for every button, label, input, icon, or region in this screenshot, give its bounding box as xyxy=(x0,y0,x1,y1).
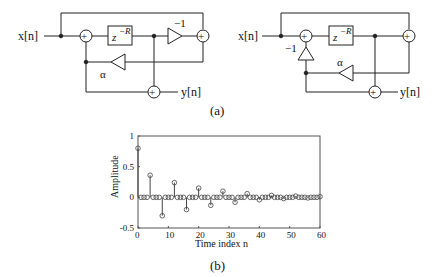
svg-text:+: + xyxy=(404,30,410,42)
svg-text:0: 0 xyxy=(130,192,135,202)
output-label: y[n] xyxy=(181,85,201,99)
svg-text:−R: −R xyxy=(119,26,131,36)
svg-text:-0.5: -0.5 xyxy=(120,223,135,233)
svg-text:+: + xyxy=(198,30,204,42)
svg-text:α: α xyxy=(100,68,106,80)
svg-text:−1: −1 xyxy=(174,17,186,29)
svg-text:x[n]: x[n] xyxy=(238,29,258,43)
svg-text:+: + xyxy=(301,30,307,42)
svg-text:1: 1 xyxy=(130,131,135,141)
svg-text:+: + xyxy=(81,30,87,42)
svg-text:z: z xyxy=(332,31,338,43)
diagram-right: x[n] + z −R + −1 α + y[n] xyxy=(238,13,420,99)
svg-text:Amplitude: Amplitude xyxy=(109,155,120,198)
diagram-left: x[n] + z −R −1 + α + y[n] xyxy=(18,13,209,99)
svg-text:60: 60 xyxy=(317,230,327,240)
svg-text:0: 0 xyxy=(135,230,140,240)
svg-text:+: + xyxy=(149,86,155,98)
svg-text:z: z xyxy=(111,31,117,43)
svg-text:50: 50 xyxy=(287,230,297,240)
svg-text:y[n]: y[n] xyxy=(400,85,420,99)
svg-text:40: 40 xyxy=(256,230,266,240)
svg-text:−R: −R xyxy=(340,26,352,36)
svg-text:+: + xyxy=(370,86,376,98)
svg-text:α: α xyxy=(337,56,343,68)
svg-text:10: 10 xyxy=(165,230,175,240)
svg-text:30: 30 xyxy=(226,230,236,240)
stem-chart: Time index n Amplitude (b) 0102030405060… xyxy=(109,131,327,273)
caption-a: (a) xyxy=(210,103,224,118)
caption-b: (b) xyxy=(210,258,225,273)
input-label: x[n] xyxy=(18,29,38,43)
figure: x[n] + z −R −1 + α + y[n] x[n] + z −R xyxy=(0,0,436,277)
svg-text:−1: −1 xyxy=(285,42,297,54)
svg-text:0.5: 0.5 xyxy=(123,162,135,172)
svg-text:20: 20 xyxy=(196,230,206,240)
